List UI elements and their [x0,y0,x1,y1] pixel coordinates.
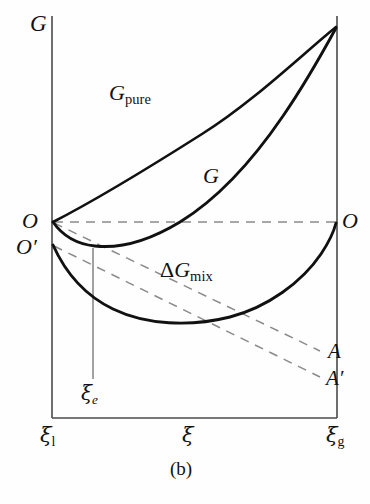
xi-glyph-center: ξ [182,423,194,447]
xi-e-subscript: e [92,392,98,407]
figure-caption: (b) [170,458,192,480]
delta-g-mix-base: G [174,257,190,282]
xi-glyph-left: ξ [40,423,52,447]
label-g-total: G [203,165,219,187]
x-tick-label-xi-g: ξg [326,425,345,449]
label-xi-e: ξe [81,383,98,406]
figure-container: G O O′ O ξl ξ ξg Gpure G ΔGmix A A′ ξe (… [0,0,370,504]
y-axis-label: G [30,12,47,35]
dashed-tangent-a [54,223,320,351]
x-tick-label-xi-l: ξl [40,425,56,449]
g-pure-base: G [109,80,125,105]
label-tangent-a: A [328,341,341,362]
origin-left-prime-label: O′ [16,236,37,258]
label-g-pure: Gpure [109,82,151,107]
xi-l-subscript: l [52,434,56,449]
xi-glyph-right: ξ [326,423,338,447]
xi-g-subscript: g [338,434,345,449]
g-pure-subscript: pure [125,91,151,107]
origin-right-label: O [342,210,358,232]
delta-g-mix-subscript: mix [190,268,213,284]
origin-left-label: O [22,210,38,232]
curve-g-pure [53,27,336,222]
xi-glyph-e: ξ [81,381,92,405]
delta-glyph: Δ [160,257,174,282]
label-tangent-a-prime: A′ [326,368,343,389]
label-delta-g-mix: ΔGmix [160,259,213,284]
x-axis-label: ξ [182,425,194,446]
